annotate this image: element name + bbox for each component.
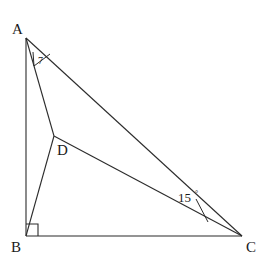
angle-label-a: 7 [38, 55, 43, 66]
vertex-label-d: D [57, 142, 68, 158]
angle-label-c: 15 [178, 190, 191, 205]
degree-symbol-c: ° [195, 189, 198, 198]
geometry-canvas: A B C D 15 ° 7 [0, 0, 267, 262]
segment-ac [26, 38, 242, 236]
vertex-label-b: B [11, 239, 21, 255]
geometry-figure: A B C D 15 ° 7 [0, 0, 267, 262]
segment-db [26, 136, 54, 236]
vertex-label-a: A [12, 21, 23, 37]
segment-ad [26, 38, 54, 136]
vertex-label-c: C [246, 239, 256, 255]
segment-dc [54, 136, 242, 236]
